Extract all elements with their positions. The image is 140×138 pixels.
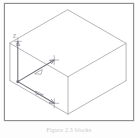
axis-label-z: Z xyxy=(13,33,17,39)
tick-mark-x xyxy=(50,98,59,108)
axis-labels: Z xyxy=(13,33,17,39)
arrowhead-y-mid xyxy=(35,69,43,74)
dimension-arrowheads xyxy=(35,69,44,95)
figure-caption: Figure 2.3 blocks xyxy=(4,124,134,136)
isometric-box-drawing: Z xyxy=(5,4,133,120)
tick-mark-y xyxy=(50,55,59,65)
figure-frame: Z xyxy=(4,3,134,121)
figure-container: Z Figure 2.3 blocks xyxy=(0,0,140,138)
box-edge-bottom-right xyxy=(68,81,126,114)
axis-line-y xyxy=(18,60,54,82)
axis-line-x xyxy=(18,82,54,104)
box-wireframe xyxy=(10,10,126,114)
axis-origin-point xyxy=(16,80,19,83)
box-top-face xyxy=(10,10,126,77)
box-edge-bottom-left xyxy=(10,81,68,114)
